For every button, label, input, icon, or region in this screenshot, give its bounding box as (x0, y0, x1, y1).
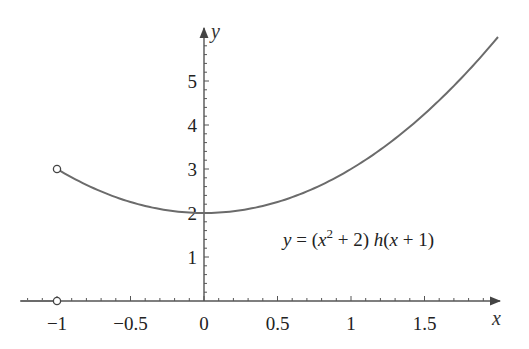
equation-annotation: y = (x2 + 2) h(x + 1) (281, 226, 434, 251)
curve-parabola (57, 37, 498, 213)
y-tick-label: 1 (188, 247, 198, 268)
x-tick-label: 0.5 (266, 313, 290, 334)
chart-plot: −1−0.500.511.5 12345 y x y = (x2 + 2) h(… (0, 0, 529, 349)
y-tick-label: 3 (188, 159, 198, 180)
open-circle-marker (53, 297, 60, 304)
curves (20, 37, 498, 305)
axes: −1−0.500.511.5 12345 y x (25, 20, 501, 334)
open-circle-marker (53, 165, 60, 172)
y-ticks: 12345 (188, 46, 210, 292)
y-tick-label: 4 (188, 115, 198, 136)
x-tick-label: −1 (47, 313, 67, 334)
x-tick-label: 1.5 (413, 313, 437, 334)
y-axis-label: y (209, 20, 220, 43)
x-axis-label: x (491, 307, 501, 329)
x-tick-label: −0.5 (113, 313, 147, 334)
y-tick-label: 5 (188, 71, 198, 92)
x-tick-label: 0 (199, 313, 209, 334)
x-tick-label: 1 (346, 313, 356, 334)
